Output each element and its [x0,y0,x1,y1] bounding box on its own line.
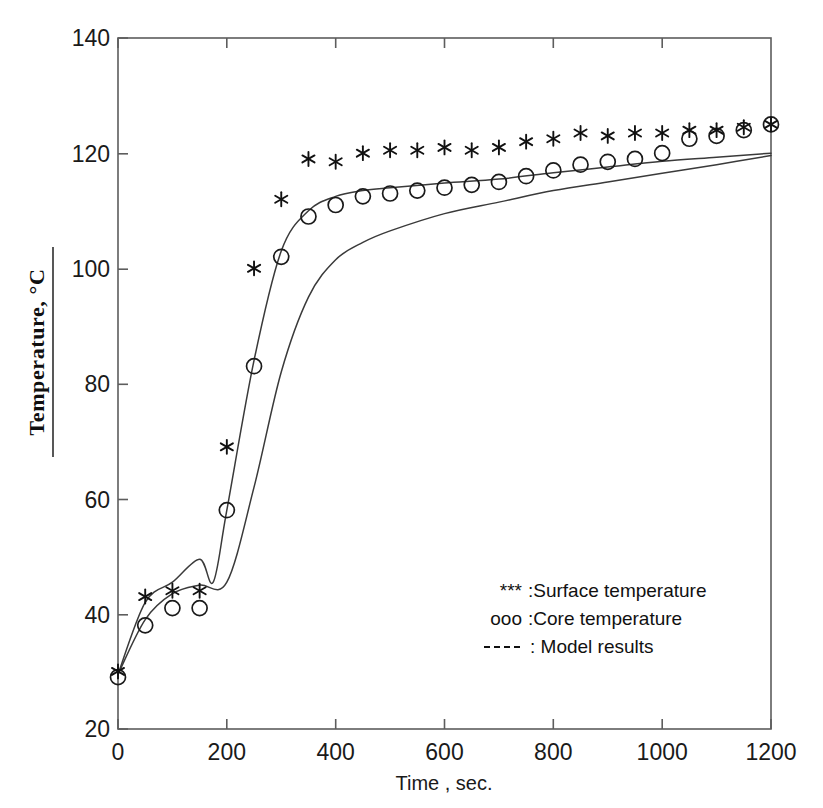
circle-marker [192,601,207,616]
circle-marker [464,177,479,192]
circle-marker [491,174,506,189]
star-marker [275,192,287,206]
x-tick-label-1000: 1000 [637,739,688,765]
y-axis-title: Temperature, °C [24,269,49,436]
x-tick-label-800: 800 [534,739,572,765]
star-marker [629,126,641,140]
legend-symbol-core: ooo [490,608,522,629]
figure-container: 20 40 60 80 100 120 140 0 200 400 600 80… [0,0,823,808]
star-marker [765,117,777,131]
circle-marker [655,146,670,161]
circle-marker [328,197,343,212]
circle-marker [546,163,561,178]
x-tick-label-600: 600 [425,739,463,765]
legend-label-model: : Model results [530,636,654,657]
star-marker [221,440,233,454]
x-tick-label-1200: 1200 [745,739,796,765]
star-marker [330,155,342,169]
star-marker [302,152,314,166]
star-marker [738,120,750,134]
star-marker [466,143,478,157]
star-marker [656,126,668,140]
x-axis-title: Time , sec. [395,772,492,794]
legend-label-core: :Core temperature [528,608,682,629]
legend-symbol-surface: *** [500,580,523,601]
y-axis-ticks [118,38,128,729]
star-marker [411,143,423,157]
star-marker [547,132,559,146]
star-marker [493,140,505,154]
star-marker [520,135,532,149]
x-tick-label-200: 200 [208,739,246,765]
y-axis-title-group: Temperature, °C [24,247,53,457]
star-marker [683,123,695,137]
star-marker [438,140,450,154]
star-marker [357,146,369,160]
y-tick-label-120: 120 [72,141,110,167]
star-marker [384,143,396,157]
temperature-time-chart: 20 40 60 80 100 120 140 0 200 400 600 80… [0,0,823,808]
y-tick-label-100: 100 [72,256,110,282]
y-tick-label-80: 80 [84,371,110,397]
x-tick-label-400: 400 [317,739,355,765]
x-tick-label-0: 0 [112,739,125,765]
star-marker [574,126,586,140]
y-tick-label-20: 20 [84,716,110,742]
circle-marker [165,601,180,616]
star-marker [248,261,260,275]
legend-label-surface: :Surface temperature [528,580,706,601]
y-tick-label-40: 40 [84,602,110,628]
legend: *** :Surface temperature ooo :Core tempe… [484,580,706,657]
y-tick-label-140: 140 [72,25,110,51]
y-tick-label-60: 60 [84,487,110,513]
star-marker [602,129,614,143]
